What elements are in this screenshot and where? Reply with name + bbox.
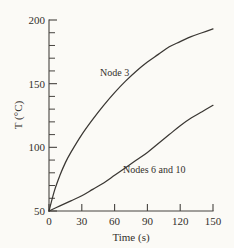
x-tick-label-120: 120 xyxy=(172,215,189,227)
y-tick-label-100: 100 xyxy=(29,141,46,153)
y-tick-label-200: 200 xyxy=(29,14,46,26)
x-tick-label-30: 30 xyxy=(76,215,88,227)
chart-figure: 200 150 100 50 0 30 60 90 120 150 Time (… xyxy=(0,0,234,248)
x-axis-major-ticks xyxy=(49,204,213,211)
curve-annotation-node-3: Node 3 xyxy=(100,67,129,78)
x-axis-title: Time (s) xyxy=(112,231,150,244)
x-tick-label-60: 60 xyxy=(109,215,121,227)
y-axis-title: T (°C) xyxy=(12,101,25,130)
x-tick-label-150: 150 xyxy=(205,215,222,227)
temperature-vs-time-chart: 200 150 100 50 0 30 60 90 120 150 Time (… xyxy=(0,0,234,248)
y-axis-minor-ticks xyxy=(49,33,55,199)
y-axis-major-ticks xyxy=(49,20,57,211)
y-tick-label-150: 150 xyxy=(29,78,46,90)
x-tick-label-90: 90 xyxy=(142,215,154,227)
curve-nodes-6-and-10 xyxy=(49,105,213,211)
y-tick-label-50: 50 xyxy=(34,205,46,217)
x-tick-label-0: 0 xyxy=(46,215,52,227)
curve-annotation-nodes-6-and-10: Nodes 6 and 10 xyxy=(123,164,186,175)
